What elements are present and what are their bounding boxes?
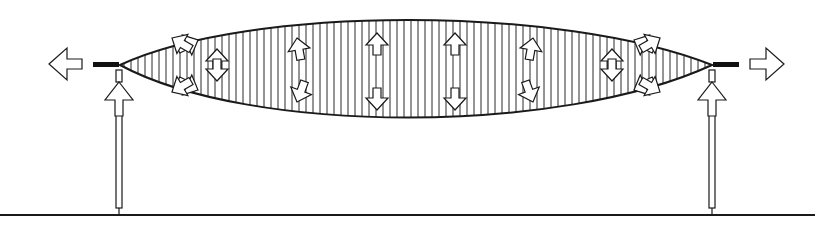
left-post-support-arrow-icon bbox=[105, 82, 133, 116]
left-post-cap bbox=[116, 70, 122, 82]
left-tension-arrow-icon bbox=[49, 48, 82, 80]
right-clamp bbox=[713, 62, 739, 67]
right-tension-arrow-icon bbox=[750, 48, 784, 80]
right-post-cap bbox=[709, 70, 715, 82]
left-clamp bbox=[93, 62, 119, 67]
right-post bbox=[698, 62, 739, 215]
right-post-support-arrow-icon bbox=[698, 82, 726, 116]
left-post bbox=[93, 62, 133, 215]
membrane-diagram bbox=[0, 0, 815, 232]
